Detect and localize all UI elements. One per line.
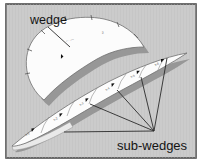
wedge-label: wedge — [29, 13, 67, 27]
figure-canvas: s-1 s-2 s-3 s-4 s-5 s-6 – · –– 2 wedge — [0, 0, 203, 167]
subwedges-label: sub-wedges — [117, 138, 188, 153]
wedge-diagram: s-1 s-2 s-3 s-4 s-5 s-6 – · –– 2 wedge — [0, 0, 203, 167]
